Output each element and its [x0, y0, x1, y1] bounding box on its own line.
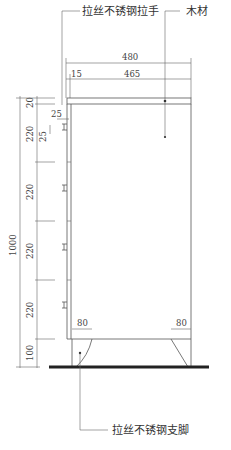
wood-leader: 木材: [164, 4, 208, 138]
dim-inner-width: 465: [124, 69, 140, 79]
handle-leader: 拉丝不锈钢拉手: [62, 4, 159, 105]
handle-icon: [62, 244, 67, 250]
handle-label: 拉丝不锈钢拉手: [82, 4, 159, 18]
dim-top-board: 20: [25, 97, 35, 108]
wood-label: 木材: [186, 4, 208, 18]
dim-base: 100: [25, 345, 35, 361]
dim-leg-left: 80: [77, 318, 88, 328]
dim-drawer-4: 220: [25, 302, 35, 318]
leg-label: 拉丝不锈钢支脚: [112, 423, 189, 437]
dim-drawer-1: 220: [25, 126, 35, 142]
dim-drawer-2: 220: [25, 184, 35, 200]
cabinet-elevation-drawing: 拉丝不锈钢拉手 木材 480 15 465: [0, 0, 231, 450]
handle-icon: [62, 124, 67, 130]
handles: [62, 124, 67, 308]
dim-total-width: 480: [122, 52, 138, 62]
width-dimensions: 480 15 465: [66, 52, 191, 98]
dim-panel-offset: 15: [71, 69, 82, 79]
dim-handle-offset-v: 25: [38, 131, 48, 142]
handle-icon: [62, 185, 67, 191]
handle-icon: [62, 302, 67, 308]
dim-leg-right: 80: [176, 318, 187, 328]
dim-handle-offset-h: 25: [51, 109, 62, 119]
dim-total-height: 1000: [8, 234, 18, 256]
dim-drawer-3: 220: [25, 243, 35, 259]
cabinet-body: [67, 98, 191, 339]
legs: 80 80: [72, 318, 191, 367]
